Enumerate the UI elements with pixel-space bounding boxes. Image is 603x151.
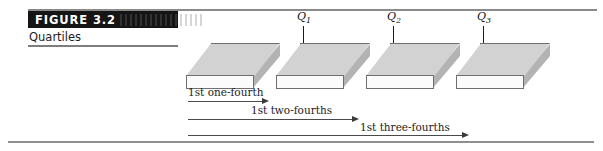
figure-caption: Quartiles [29, 30, 81, 44]
quartile-label-q2: Q2 [381, 10, 407, 25]
block-front-face [366, 75, 434, 89]
span-line-one-fourth [188, 101, 262, 102]
figure-bottom-rule [8, 141, 594, 143]
right-arrow-head-icon [352, 116, 359, 122]
figure-3-2-quartiles: FIGURE 3.2 Quartiles Q1 Q2 Q3 [0, 0, 603, 151]
block-front-face [456, 75, 524, 89]
span-line-two-fourths [188, 119, 352, 120]
span-label-two-fourths: 1st two-fourths [251, 104, 332, 116]
quartile-label-q3: Q3 [471, 10, 497, 25]
block-front-face [276, 75, 344, 89]
quarter-block-3 [366, 43, 460, 89]
right-arrow-head-icon [462, 132, 469, 138]
banner-scan-artifact [120, 14, 204, 26]
quartile-label-q1: Q1 [291, 10, 317, 25]
quarter-block-2 [276, 43, 370, 89]
quarter-block-4 [456, 43, 550, 89]
figure-number-banner: FIGURE 3.2 [28, 11, 178, 28]
span-label-one-fourth: 1st one-fourth [188, 86, 263, 98]
span-line-three-fourths [188, 135, 462, 136]
quarter-block-1 [186, 43, 280, 89]
figure-number-label: FIGURE 3.2 [35, 13, 116, 27]
span-label-three-fourths: 1st three-fourths [360, 121, 450, 133]
caption-underline-rule [28, 45, 178, 47]
